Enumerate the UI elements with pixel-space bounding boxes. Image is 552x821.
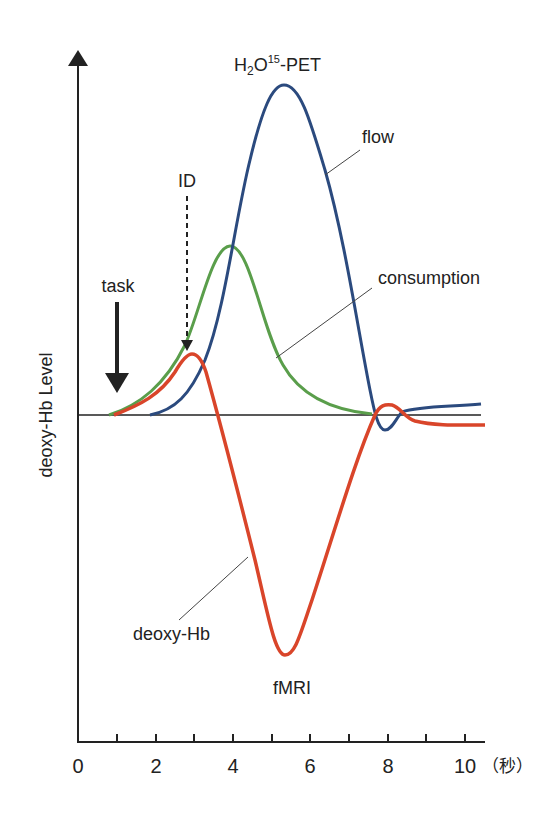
y-axis (68, 50, 88, 743)
fmri-label: fMRI (273, 678, 311, 698)
x-unit-label: （秒） (482, 757, 533, 776)
x-tick-label: 0 (72, 755, 83, 777)
deoxy-hb-leader-line (179, 557, 248, 620)
deoxy-hb-curve (114, 354, 485, 655)
y-axis-label: deoxy-Hb Level (36, 352, 56, 477)
x-tick-label: 4 (227, 755, 238, 777)
flow-curve (150, 85, 481, 430)
x-tick-label: 6 (304, 755, 315, 777)
x-axis-ticks (117, 734, 465, 742)
flow-leader-line (325, 150, 360, 175)
chart: 0 2 4 6 8 10 （秒） deoxy-Hb Level task ID … (0, 0, 552, 821)
consumption-label: consumption (378, 268, 480, 288)
deoxy-hb-label: deoxy-Hb (133, 624, 210, 644)
task-arrow-icon (105, 302, 129, 393)
flow-label: flow (362, 127, 395, 147)
id-label: ID (178, 171, 196, 191)
x-tick-label: 10 (454, 755, 476, 777)
consumption-curve (109, 246, 372, 415)
x-axis: 0 2 4 6 8 10 （秒） (72, 734, 533, 777)
pet-label: H2O15-PET (234, 53, 321, 78)
task-label: task (101, 276, 135, 296)
x-tick-label: 2 (150, 755, 161, 777)
x-tick-label: 8 (382, 755, 393, 777)
y-axis-arrow-icon (68, 50, 88, 66)
